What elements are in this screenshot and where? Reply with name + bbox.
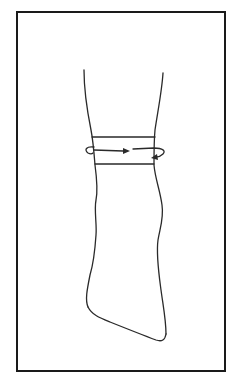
hand-bottom-contour — [88, 307, 166, 341]
arm-drawing — [0, 0, 236, 384]
arm-left-contour — [84, 70, 97, 307]
left-arrowhead-icon — [123, 148, 130, 154]
left-rotation-arrow — [86, 147, 123, 154]
right-rotation-arrow — [133, 148, 164, 157]
arm-right-contour — [154, 73, 166, 334]
